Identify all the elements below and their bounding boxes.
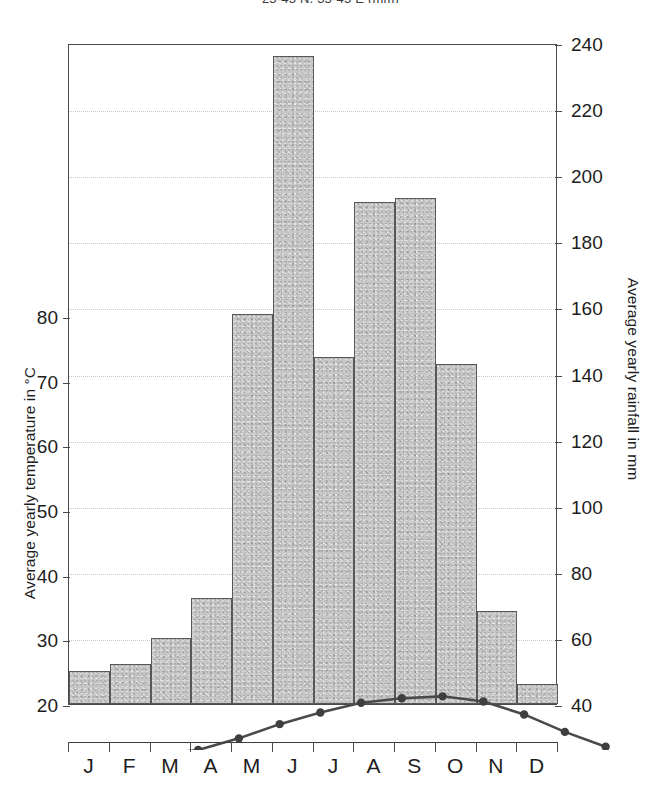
bar-n-10 <box>477 611 518 704</box>
right-tick-180 <box>555 243 562 244</box>
right-axis-label-100: 100 <box>571 498 629 517</box>
x-tick-1 <box>109 742 110 752</box>
x-axis-label-2: M <box>149 755 191 776</box>
left-tick-20 <box>63 706 70 707</box>
temperature-marker-d-11 <box>601 743 609 750</box>
right-tick-60 <box>555 640 562 641</box>
left-axis-label-40: 40 <box>6 567 58 586</box>
right-axis-label-160: 160 <box>571 299 629 318</box>
right-tick-220 <box>555 111 562 112</box>
x-tick-6 <box>313 742 314 752</box>
x-tick-3 <box>190 742 191 752</box>
right-tick-240 <box>555 45 562 46</box>
right-axis-label-40: 40 <box>571 696 629 715</box>
x-tick-2 <box>150 742 151 752</box>
left-tick-40 <box>63 577 70 578</box>
bar-j-0 <box>69 671 110 704</box>
bar-m-4 <box>232 314 273 704</box>
bar-m-2 <box>151 638 192 704</box>
x-axis-label-10: N <box>475 755 517 776</box>
bar-j-6 <box>314 357 355 704</box>
left-axis-label-30: 30 <box>6 631 58 650</box>
left-axis-title: Average yearly temperature in °C <box>21 303 39 663</box>
bar-d-11 <box>517 684 558 704</box>
right-axis-label-220: 220 <box>571 101 629 120</box>
left-tick-60 <box>63 447 70 448</box>
bar-a-7 <box>354 202 395 704</box>
x-axis-label-5: J <box>271 755 313 776</box>
x-axis-label-8: S <box>393 755 435 776</box>
left-tick-80 <box>63 318 70 319</box>
left-axis-label-20: 20 <box>6 696 58 715</box>
right-tick-80 <box>555 574 562 575</box>
plot-area <box>68 44 557 705</box>
x-axis-label-1: F <box>108 755 150 776</box>
bar-a-3 <box>191 598 232 704</box>
right-axis-label-120: 120 <box>571 432 629 451</box>
x-axis-label-3: A <box>190 755 232 776</box>
left-axis-label-60: 60 <box>6 437 58 456</box>
x-tick-9 <box>435 742 436 752</box>
left-tick-70 <box>63 383 70 384</box>
right-axis-label-180: 180 <box>571 233 629 252</box>
bar-o-9 <box>436 364 477 704</box>
x-axis-label-4: M <box>230 755 272 776</box>
left-axis-label-80: 80 <box>6 308 58 327</box>
x-tick-0 <box>68 742 69 752</box>
temperature-marker-m-4 <box>316 708 324 716</box>
chart-title: 25-45 N, 35-45 E (mm) <box>0 0 661 3</box>
temperature-marker-o-9 <box>520 710 528 718</box>
x-tick-11 <box>516 742 517 752</box>
right-axis-label-200: 200 <box>571 167 629 186</box>
right-axis-label-140: 140 <box>571 366 629 385</box>
x-axis-label-0: J <box>67 755 109 776</box>
right-tick-160 <box>555 309 562 310</box>
temperature-marker-n-10 <box>561 728 569 736</box>
right-axis-label-60: 60 <box>571 630 629 649</box>
left-tick-30 <box>63 641 70 642</box>
temperature-marker-f-1 <box>194 746 202 750</box>
right-tick-200 <box>555 177 562 178</box>
right-axis-label-80: 80 <box>571 564 629 583</box>
left-axis-label-70: 70 <box>6 373 58 392</box>
bar-s-8 <box>395 198 436 704</box>
x-axis-label-9: O <box>434 755 476 776</box>
x-axis-label-7: A <box>353 755 395 776</box>
bar-f-1 <box>110 664 151 704</box>
right-tick-40 <box>555 706 562 707</box>
x-tick-8 <box>394 742 395 752</box>
x-tick-5 <box>272 742 273 752</box>
right-tick-140 <box>555 376 562 377</box>
x-tick-10 <box>476 742 477 752</box>
right-axis-label-240: 240 <box>571 35 629 54</box>
right-tick-100 <box>555 508 562 509</box>
left-tick-50 <box>63 512 70 513</box>
temperature-marker-a-3 <box>275 720 283 728</box>
bar-j-5 <box>273 56 314 704</box>
x-tick-7 <box>353 742 354 752</box>
x-tick-4 <box>231 742 232 752</box>
x-tick-12 <box>557 742 558 752</box>
right-tick-120 <box>555 442 562 443</box>
x-axis-label-11: D <box>516 755 558 776</box>
x-axis-label-6: J <box>312 755 354 776</box>
left-axis-label-50: 50 <box>6 502 58 521</box>
